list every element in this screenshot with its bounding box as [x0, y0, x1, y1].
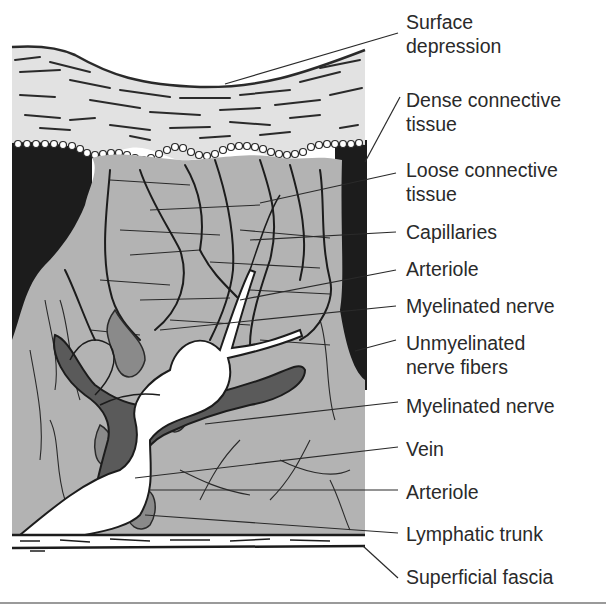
label-arteriole-upper: Arteriole — [406, 257, 479, 281]
label-vein: Vein — [406, 437, 444, 461]
label-arteriole-lower: Arteriole — [406, 480, 479, 504]
bottom-rule — [0, 602, 606, 604]
label-loose-connective-tissue: Loose connective tissue — [406, 158, 558, 206]
superficial-fascia-region — [12, 535, 365, 551]
label-capillaries: Capillaries — [406, 220, 497, 244]
label-superficial-fascia: Superficial fascia — [406, 565, 553, 589]
label-surface-depression: Surface depression — [406, 10, 501, 58]
label-myelinated-nerve-lower: Myelinated nerve — [406, 394, 555, 418]
label-unmyelinated-nerve-fibers: Unmyelinated nerve fibers — [406, 331, 525, 379]
label-lymphatic-trunk: Lymphatic trunk — [406, 522, 543, 546]
label-myelinated-nerve-upper: Myelinated nerve — [406, 294, 555, 318]
label-dense-connective-tissue: Dense connective tissue — [406, 88, 561, 136]
